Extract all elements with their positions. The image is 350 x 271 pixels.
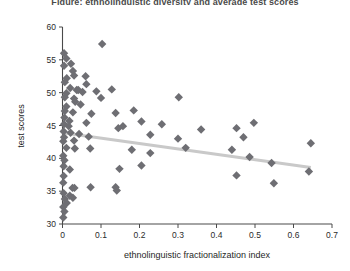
scatter-plot: 30354045505560 00.10.20.30.40.50.60.7 te…: [0, 0, 350, 271]
x-tick-label: 0.2: [134, 230, 146, 240]
data-point: [267, 159, 275, 167]
data-point: [82, 80, 90, 88]
data-point: [86, 183, 94, 191]
data-point: [158, 120, 166, 128]
data-point: [87, 109, 95, 117]
data-point: [59, 213, 67, 221]
data-point: [130, 106, 138, 114]
data-point: [69, 108, 77, 116]
data-point: [270, 179, 278, 187]
data-point: [97, 94, 105, 102]
x-tick-label: 0: [60, 230, 65, 240]
data-point: [98, 40, 106, 48]
axes: [63, 27, 333, 224]
x-axis-ticks: 00.10.20.30.40.50.60.7: [60, 224, 338, 240]
x-tick-label: 0.7: [326, 230, 338, 240]
y-tick-label: 60: [47, 22, 57, 32]
data-point: [174, 134, 182, 142]
data-point: [146, 149, 154, 157]
data-point: [86, 144, 94, 152]
x-tick-label: 0.1: [95, 230, 107, 240]
y-tick-label: 30: [47, 219, 57, 229]
y-axis-title: test scores: [16, 104, 26, 148]
data-point: [60, 62, 68, 70]
data-point: [250, 119, 258, 127]
data-point: [111, 109, 119, 117]
data-point: [307, 139, 315, 147]
data-points: [59, 40, 315, 222]
data-point: [232, 171, 240, 179]
data-point: [239, 133, 247, 141]
y-tick-label: 50: [47, 88, 57, 98]
x-tick-label: 0.6: [288, 230, 300, 240]
data-point: [175, 93, 183, 101]
y-tick-label: 45: [47, 121, 57, 131]
x-tick-label: 0.3: [172, 230, 184, 240]
data-point: [82, 119, 90, 127]
x-tick-label: 0.4: [211, 230, 223, 240]
y-tick-label: 35: [47, 186, 57, 196]
data-point: [232, 124, 240, 132]
data-point: [59, 178, 67, 186]
data-point: [71, 144, 79, 152]
y-tick-label: 40: [47, 153, 57, 163]
data-point: [128, 146, 136, 154]
x-tick-label: 0.5: [249, 230, 261, 240]
data-point: [305, 167, 313, 175]
data-point: [197, 125, 205, 133]
data-point: [92, 87, 100, 95]
data-point: [115, 165, 123, 173]
data-point: [108, 85, 116, 93]
data-point: [84, 132, 92, 140]
data-point: [146, 130, 154, 138]
data-point: [137, 117, 145, 125]
data-point: [70, 136, 78, 144]
data-point: [228, 146, 236, 154]
data-point: [137, 161, 145, 169]
x-axis-title: ethnolinguistic fractionalization index: [124, 250, 271, 260]
chart-figure: Figure: ethnolinguistic diversity and av…: [0, 0, 350, 271]
y-tick-label: 55: [47, 55, 57, 65]
data-point: [81, 72, 89, 80]
